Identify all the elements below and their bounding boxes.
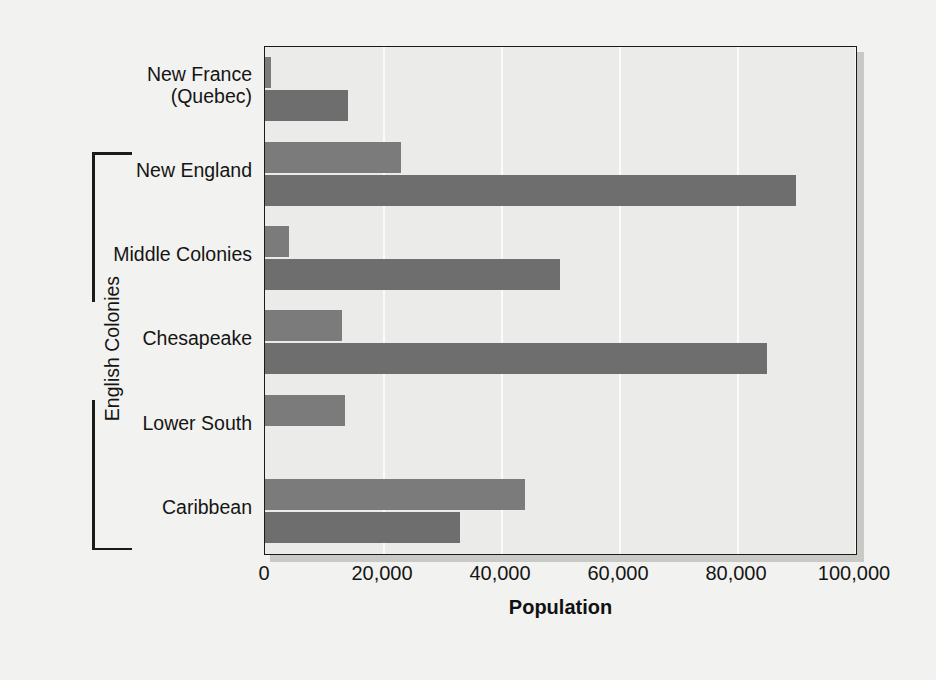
- gridline: [619, 47, 621, 554]
- x-tick-label: 80,000: [705, 562, 766, 585]
- bar: [265, 395, 345, 426]
- x-tick-label: 60,000: [587, 562, 648, 585]
- bracket-arm-bottom: [92, 548, 132, 551]
- english-colonies-bracket: English Colonies: [92, 152, 132, 550]
- bracket-spine-lower: [92, 400, 95, 550]
- x-tick-label: 40,000: [469, 562, 530, 585]
- bar: [265, 226, 289, 257]
- bracket-spine-upper: [92, 152, 95, 302]
- gridline: [855, 47, 857, 554]
- x-tick-label: 100,000: [818, 562, 890, 585]
- bar: [265, 142, 401, 173]
- bar: [265, 479, 525, 510]
- x-axis-title: Population: [264, 596, 857, 619]
- bar: [265, 175, 796, 206]
- x-axis-ticks: 020,00040,00060,00080,000100,000: [264, 562, 857, 592]
- chart-figure: New France(Quebec)New EnglandMiddle Colo…: [0, 0, 936, 680]
- plot-area: 16501700: [264, 46, 857, 555]
- bar: [265, 343, 767, 374]
- bracket-label: English Colonies: [101, 249, 124, 449]
- category-label-line: New France: [2, 64, 252, 86]
- bar: [265, 259, 560, 290]
- gridline: [737, 47, 739, 554]
- category-label-line: (Quebec): [2, 86, 252, 108]
- bar: [265, 90, 348, 121]
- bar: [265, 512, 460, 543]
- bar: [265, 57, 271, 88]
- x-tick-label: 20,000: [351, 562, 412, 585]
- bar: [265, 310, 342, 341]
- x-tick-label: 0: [258, 562, 269, 585]
- bracket-arm-top: [92, 152, 132, 155]
- category-label: New France(Quebec): [2, 64, 252, 108]
